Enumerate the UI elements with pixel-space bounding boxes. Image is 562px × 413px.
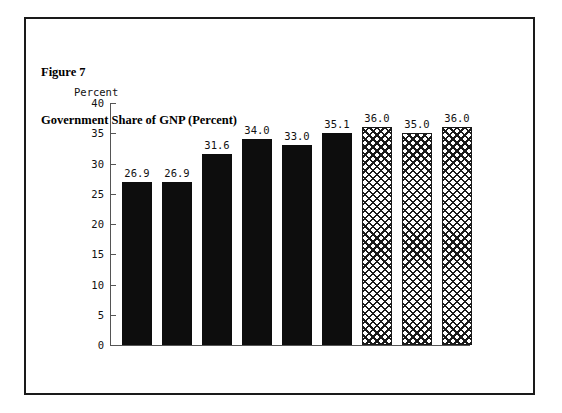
bar-value-label: 26.9 <box>152 167 202 179</box>
y-axis-tick <box>111 164 116 165</box>
bar <box>202 154 232 345</box>
bar-value-label: 31.6 <box>192 139 242 151</box>
bar <box>162 182 192 345</box>
y-axis-tick-label: 40 <box>70 97 104 109</box>
y-axis-tick <box>111 254 116 255</box>
bar <box>282 145 312 345</box>
y-axis-tick-label: 30 <box>70 158 104 170</box>
y-axis-tick <box>111 224 116 225</box>
y-axis-tick <box>111 315 116 316</box>
x-axis-line <box>110 345 470 346</box>
y-axis-tick-label: 15 <box>70 248 104 260</box>
bar-value-label: 33.0 <box>272 130 322 142</box>
y-axis-tick <box>111 133 116 134</box>
bar-value-label: 36.0 <box>432 112 482 124</box>
y-axis-tick-label: 20 <box>70 218 104 230</box>
bar <box>362 127 392 345</box>
bar <box>402 133 432 345</box>
bar <box>122 182 152 345</box>
y-axis-tick-label: 0 <box>70 339 104 351</box>
y-axis-tick-label: 35 <box>70 127 104 139</box>
y-axis-tick <box>111 285 116 286</box>
y-axis-tick <box>111 345 116 346</box>
bar <box>322 133 352 345</box>
y-axis-tick <box>111 194 116 195</box>
y-axis-tick <box>111 103 116 104</box>
y-axis-tick-label: 25 <box>70 188 104 200</box>
figure-number: Figure 7 <box>41 64 237 80</box>
y-axis-tick-label: 5 <box>70 309 104 321</box>
bar <box>442 127 472 345</box>
bar-chart-plot-area: 0510152025303540 26.9196026.9196531.6197… <box>110 103 470 346</box>
bar <box>242 139 272 345</box>
y-axis-tick-label: 10 <box>70 279 104 291</box>
